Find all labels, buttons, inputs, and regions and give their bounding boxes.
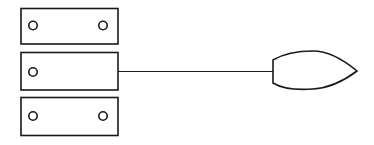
bottom-plate-hole-left-icon	[29, 112, 37, 120]
top-plate-hole-right-icon	[99, 21, 107, 29]
bottom-plate-hole-right-icon	[99, 112, 107, 120]
top-plate	[21, 9, 118, 45]
top-plate-outline	[21, 9, 118, 45]
bottom-plate-outline	[21, 98, 118, 136]
diagram-svg	[0, 0, 374, 145]
top-plate-hole-left-icon	[29, 21, 37, 29]
leaf-shape-icon	[273, 51, 357, 89]
middle-plate-outline	[21, 53, 118, 91]
middle-plate-hole-icon	[29, 68, 37, 76]
middle-plate	[21, 53, 118, 91]
bottom-plate	[21, 98, 118, 136]
diagram-canvas	[0, 0, 374, 145]
